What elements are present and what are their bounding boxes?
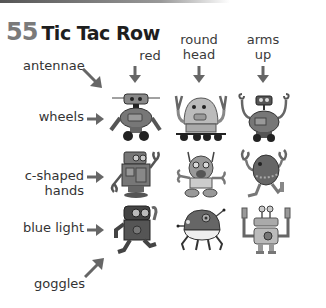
column-label-arms-up: armsup (233, 32, 293, 62)
column-label-round-head: roundhead (169, 32, 229, 62)
down-arrow-icon (128, 66, 142, 84)
down-arrow-icon (256, 66, 270, 84)
top-border (0, 0, 230, 3)
robot-antenna-arms-up-wheels (236, 92, 292, 144)
robot-eyestalks-arms-up (238, 202, 294, 256)
robot-boxy-c-hands (108, 148, 164, 200)
robot-egg-c-hands-arms-up (238, 148, 294, 200)
label-antennae: antennae (23, 58, 85, 73)
robot-round-c-hands (172, 148, 230, 200)
row-label-blue-light: blue light (23, 220, 84, 235)
diagonal-arrow-up-right-icon (84, 256, 106, 278)
robot-goggles-walking (108, 204, 164, 256)
page-title-text: Tic Tac Row (41, 22, 159, 44)
robot-box-head-wheels (108, 92, 164, 144)
down-arrow-icon (192, 66, 206, 84)
row-label-wheels: wheels (39, 109, 84, 124)
robot-round-spider (174, 204, 230, 256)
label-goggles: goggles (34, 276, 85, 291)
diagonal-arrow-down-right-icon (82, 68, 104, 90)
page-number: 55 (6, 18, 37, 46)
robot-dome-wheels-arms-up (172, 92, 230, 144)
right-arrow-icon (87, 170, 105, 184)
right-arrow-icon (87, 223, 105, 237)
row-label-c-shaped-hands: c-shapedhands (25, 168, 84, 198)
right-arrow-icon (87, 112, 105, 126)
page-title: 55Tic Tac Row (6, 18, 160, 46)
